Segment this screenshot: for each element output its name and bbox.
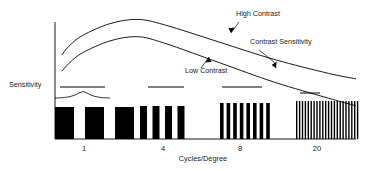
grating-group-8 [220,103,270,139]
x-axis-title: Cycles/Degree [179,154,227,163]
grating-bar [337,101,338,139]
high-contrast-arrowhead [228,27,234,33]
low-contrast-label: Low Contrast [185,66,227,75]
grating-group-20 [296,101,358,139]
grating-bar [178,106,185,139]
x-tick-label-8: 8 [238,144,242,153]
x-tick-label-4: 4 [161,144,165,153]
cycle-brace [55,92,110,99]
grating-bar [322,101,323,139]
chart-canvas: High Contrast Contrast Sensitivity Low C… [0,0,366,171]
grating-groups [55,101,358,139]
grating-bar [220,103,224,139]
grating-bar [342,101,343,139]
grating-bar [354,101,355,139]
grating-bar [115,107,134,139]
grating-bar [299,101,300,139]
grating-bar [233,103,237,139]
grating-bar [340,101,341,139]
contrast-sensitivity-chart: High Contrast Contrast Sensitivity Low C… [0,0,366,171]
grating-bar [348,101,349,139]
grating-bar [308,101,309,139]
grating-bar [328,101,329,139]
grating-bar [266,103,270,139]
y-axis-title: Sensitivity [9,80,42,89]
grating-bar [227,103,231,139]
grating-group-1 [55,107,134,139]
grating-bar [311,101,312,139]
contrast-sensitivity-label: Contrast Sensitivity [250,37,312,46]
high-contrast-label: High Contrast [236,9,280,18]
grating-bar [325,101,326,139]
grating-bar [165,106,172,139]
grating-bar [313,101,314,139]
grating-bar [357,101,358,139]
x-tick-label-1: 1 [82,144,86,153]
grating-bar [331,101,332,139]
grating-bar [55,107,74,139]
grating-bar [240,103,244,139]
grating-bar [153,106,160,139]
grating-bar [345,101,346,139]
grating-bar [296,101,297,139]
grating-bar [319,101,320,139]
grating-group-4 [140,106,185,139]
x-tick-label-20: 20 [313,144,321,153]
grating-bar [305,101,306,139]
grating-bar [302,101,303,139]
grating-bar [253,103,257,139]
grating-bar [85,107,104,139]
grating-bar [351,101,352,139]
x-tick-labels: 14820 [82,144,321,153]
grating-bar [316,101,317,139]
grating-bar [140,106,147,139]
grating-bar [260,103,264,139]
group-marker-lines [60,87,320,93]
high-contrast-leader [231,22,239,33]
grating-bar [246,103,250,139]
grating-bar [334,101,335,139]
